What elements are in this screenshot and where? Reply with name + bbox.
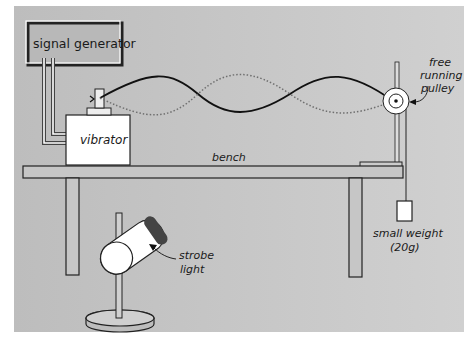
weight-label-line-1: small weight — [373, 228, 443, 240]
signal-generator-label: signal generator — [33, 36, 136, 51]
vibrator-label: vibrator — [80, 134, 127, 146]
pulley — [383, 88, 409, 114]
pulley-label-line-2: running — [420, 70, 462, 82]
bench-label: bench — [212, 152, 246, 164]
pulley-label-line-3: pulley — [421, 83, 454, 95]
strobe-label-line-1: strobe — [179, 250, 214, 262]
strobe-label-line-2: light — [180, 264, 204, 276]
diagram-canvas — [0, 0, 472, 349]
diagram: signal generator vibrator bench free run… — [0, 0, 472, 349]
pulley-label-line-1: free — [429, 57, 451, 69]
weight-label-line-2: (20g) — [390, 242, 420, 254]
